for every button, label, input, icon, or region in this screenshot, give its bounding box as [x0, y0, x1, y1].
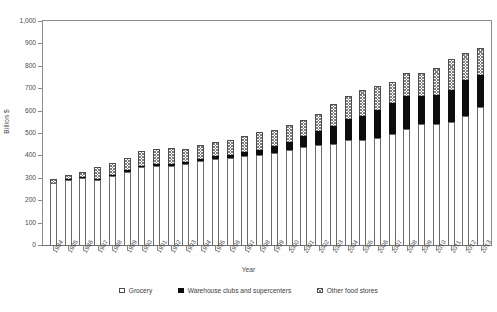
bar-column[interactable]	[267, 21, 282, 245]
bar-stack[interactable]	[168, 148, 175, 245]
bar-column[interactable]	[429, 21, 444, 245]
bar-column[interactable]	[473, 21, 488, 245]
bar-stack[interactable]	[462, 53, 469, 245]
bar-segment-grocery	[286, 150, 293, 245]
bar-stack[interactable]	[227, 140, 234, 245]
bar-column[interactable]	[105, 21, 120, 245]
legend-item-label: Other food stores	[327, 287, 378, 294]
bar-segment-other-food-stores	[138, 151, 145, 166]
y-axis-tick-label: 1,000	[19, 18, 36, 25]
bar-stack[interactable]	[256, 132, 263, 245]
bar-column[interactable]	[149, 21, 164, 245]
bar-stack[interactable]	[448, 59, 455, 245]
bar-segment-grocery	[315, 145, 322, 245]
bar-segment-warehouse-clubs	[359, 116, 366, 140]
bar-segment-other-food-stores	[345, 96, 352, 119]
bar-column[interactable]	[90, 21, 105, 245]
bar-segment-warehouse-clubs	[300, 136, 307, 147]
bar-column[interactable]	[370, 21, 385, 245]
bar-segment-warehouse-clubs	[448, 90, 455, 122]
bar-stack[interactable]	[124, 158, 131, 245]
bar-column[interactable]	[208, 21, 223, 245]
bar-segment-other-food-stores	[94, 167, 101, 179]
bar-column[interactable]	[326, 21, 341, 245]
bar-column[interactable]	[164, 21, 179, 245]
bar-stack[interactable]	[286, 125, 293, 245]
y-axis-tick-label: 900	[25, 40, 36, 47]
y-axis-tick-label: 100	[25, 219, 36, 226]
filled-square-icon	[178, 288, 184, 294]
bar-stack[interactable]	[50, 179, 57, 245]
bar-stack[interactable]	[65, 175, 72, 245]
bar-segment-warehouse-clubs	[330, 126, 337, 143]
bar-segment-other-food-stores	[315, 114, 322, 131]
bar-column[interactable]	[252, 21, 267, 245]
bar-column[interactable]	[355, 21, 370, 245]
bar-stack[interactable]	[94, 167, 101, 245]
bar-segment-grocery	[138, 167, 145, 245]
legend-item[interactable]: Other food stores	[317, 287, 377, 294]
bar-segment-warehouse-clubs	[345, 119, 352, 140]
y-axis-tick-label: 300	[25, 175, 36, 182]
bar-segment-grocery	[241, 156, 248, 245]
bar-column[interactable]	[61, 21, 76, 245]
empty-square-icon	[119, 288, 125, 294]
bar-stack[interactable]	[330, 104, 337, 245]
bar-column[interactable]	[282, 21, 297, 245]
bar-stack[interactable]	[138, 151, 145, 245]
bar-column[interactable]	[75, 21, 90, 245]
bar-segment-other-food-stores	[374, 86, 381, 110]
bar-stack[interactable]	[315, 114, 322, 245]
legend-item-label: Grocery	[129, 287, 152, 294]
bar-stack[interactable]	[477, 48, 484, 245]
bar-stack[interactable]	[433, 68, 440, 245]
bar-stack[interactable]	[374, 86, 381, 245]
bar-segment-grocery	[271, 153, 278, 245]
bar-stack[interactable]	[271, 130, 278, 245]
bar-stack[interactable]	[153, 149, 160, 245]
bar-stack[interactable]	[300, 120, 307, 245]
plot-area	[42, 20, 492, 246]
bar-column[interactable]	[223, 21, 238, 245]
y-axis-tick-label: 500	[25, 130, 36, 137]
bar-stack[interactable]	[403, 73, 410, 245]
bar-column[interactable]	[238, 21, 253, 245]
bar-column[interactable]	[341, 21, 356, 245]
bar-column[interactable]	[134, 21, 149, 245]
bar-stack[interactable]	[345, 96, 352, 245]
bar-segment-other-food-stores	[168, 148, 175, 163]
bar-column[interactable]	[385, 21, 400, 245]
bar-column[interactable]	[120, 21, 135, 245]
bar-segment-other-food-stores	[197, 145, 204, 158]
bar-stack[interactable]	[109, 163, 116, 245]
bar-segment-grocery	[212, 159, 219, 245]
bar-segment-grocery	[94, 180, 101, 245]
bar-segment-grocery	[65, 180, 72, 245]
bar-segment-other-food-stores	[153, 149, 160, 164]
bar-column[interactable]	[444, 21, 459, 245]
legend-item[interactable]: Warehouse clubs and supercenters	[178, 287, 291, 294]
y-axis-tick-label: 0	[32, 242, 36, 249]
bar-stack[interactable]	[197, 145, 204, 245]
bar-stack[interactable]	[79, 172, 86, 245]
bar-column[interactable]	[179, 21, 194, 245]
bar-segment-other-food-stores	[271, 130, 278, 147]
bar-stack[interactable]	[182, 149, 189, 245]
legend-item[interactable]: Grocery	[119, 287, 152, 294]
bar-column[interactable]	[311, 21, 326, 245]
bar-stack[interactable]	[389, 82, 396, 246]
bar-column[interactable]	[296, 21, 311, 245]
bar-column[interactable]	[400, 21, 415, 245]
bar-segment-grocery	[359, 140, 366, 245]
bar-segment-grocery	[374, 138, 381, 245]
bar-stack[interactable]	[359, 90, 366, 245]
bar-column[interactable]	[414, 21, 429, 245]
bar-column[interactable]	[46, 21, 61, 245]
bar-segment-other-food-stores	[359, 90, 366, 116]
bar-segment-other-food-stores	[448, 59, 455, 90]
bar-column[interactable]	[193, 21, 208, 245]
bar-stack[interactable]	[241, 136, 248, 245]
bar-stack[interactable]	[418, 73, 425, 245]
bar-column[interactable]	[459, 21, 474, 245]
bar-stack[interactable]	[212, 142, 219, 245]
